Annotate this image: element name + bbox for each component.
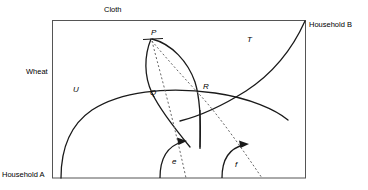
corner-label-household-b: Household B — [309, 21, 352, 29]
figure-canvas: Cloth Wheat Household B Household A U T … — [0, 0, 368, 190]
point-label-p: P — [151, 29, 156, 37]
arrow-arc-f — [222, 145, 244, 178]
edgeworth-box-frame — [53, 21, 306, 179]
dashed-price-line-2 — [152, 41, 262, 178]
arrow-head-e — [177, 138, 187, 146]
axis-label-cloth: Cloth — [104, 6, 122, 14]
arrow-head-f — [239, 141, 249, 149]
point-label-q: Q — [150, 89, 156, 97]
corner-label-household-a: Household A — [2, 171, 45, 179]
point-label-r: R — [203, 83, 209, 91]
curve-label-t: T — [247, 36, 252, 44]
axis-label-wheat: Wheat — [26, 68, 48, 76]
p-tick-line — [143, 39, 163, 40]
curve-label-u: U — [73, 86, 79, 94]
lens-right-curve — [152, 39, 200, 147]
indifference-curve-t-ghost2 — [178, 21, 305, 121]
arrow-label-e: e — [172, 158, 176, 166]
arrow-label-f: f — [235, 161, 237, 169]
